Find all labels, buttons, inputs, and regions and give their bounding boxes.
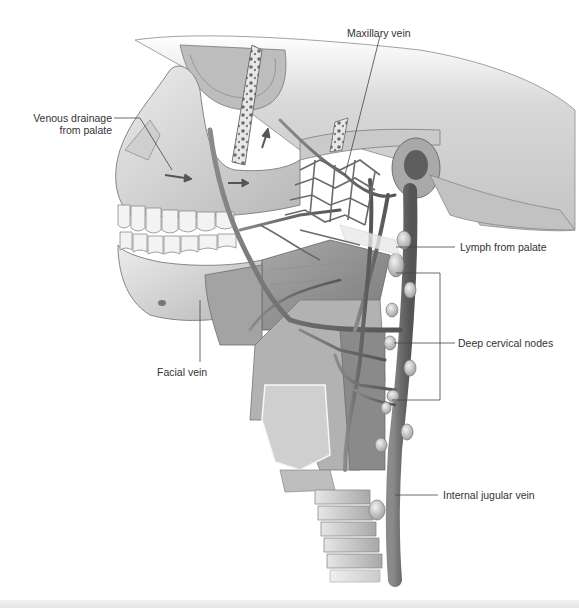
label-facial-vein: Facial vein bbox=[157, 366, 207, 378]
label-venous-drainage-line2: from palate bbox=[14, 124, 112, 136]
label-deep-cervical-nodes: Deep cervical nodes bbox=[458, 337, 553, 349]
larynx bbox=[262, 385, 335, 492]
anatomy-illustration bbox=[0, 0, 579, 608]
teeth bbox=[118, 205, 236, 254]
label-lymph-from-palate: Lymph from palate bbox=[460, 241, 547, 253]
bottom-band bbox=[0, 600, 579, 608]
label-maxillary-vein: Maxillary vein bbox=[347, 27, 411, 39]
label-venous-drainage: Venous drainage from palate bbox=[14, 112, 112, 136]
skull bbox=[116, 36, 575, 231]
label-internal-jugular-vein: Internal jugular vein bbox=[443, 489, 535, 501]
label-venous-drainage-line1: Venous drainage bbox=[14, 112, 112, 124]
